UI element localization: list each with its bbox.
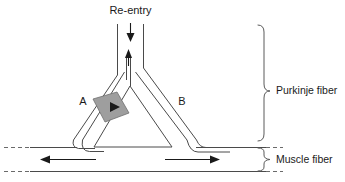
branch-b-label: B	[178, 95, 185, 107]
reentry-label: Re-entry	[109, 4, 152, 16]
reentry-circuit-diagram: Re-entry A B Purkinje fiber Muscle fiber	[0, 0, 345, 182]
arrow-right-icon	[210, 156, 220, 164]
muscle-fiber-brace	[258, 148, 270, 171]
arrow-left-icon	[40, 156, 50, 164]
branch-a-label: A	[79, 95, 87, 107]
arrow-down-icon	[127, 33, 135, 42]
arrow-up-icon	[125, 49, 132, 58]
curly-brace-icon	[258, 25, 270, 141]
purkinje-fiber-label: Purkinje fiber	[276, 84, 338, 96]
branch-b-walls	[136, 68, 231, 152]
figure-root: Re-entry A B Purkinje fiber Muscle fiber	[0, 0, 345, 182]
muscle-fiber-label: Muscle fiber	[276, 153, 333, 165]
curly-brace-icon	[258, 148, 270, 171]
muscle-right-arrow	[165, 156, 220, 164]
purkinje-fiber-brace	[258, 25, 270, 141]
muscle-left-arrow	[40, 156, 96, 164]
reentry-arrow	[127, 23, 135, 42]
